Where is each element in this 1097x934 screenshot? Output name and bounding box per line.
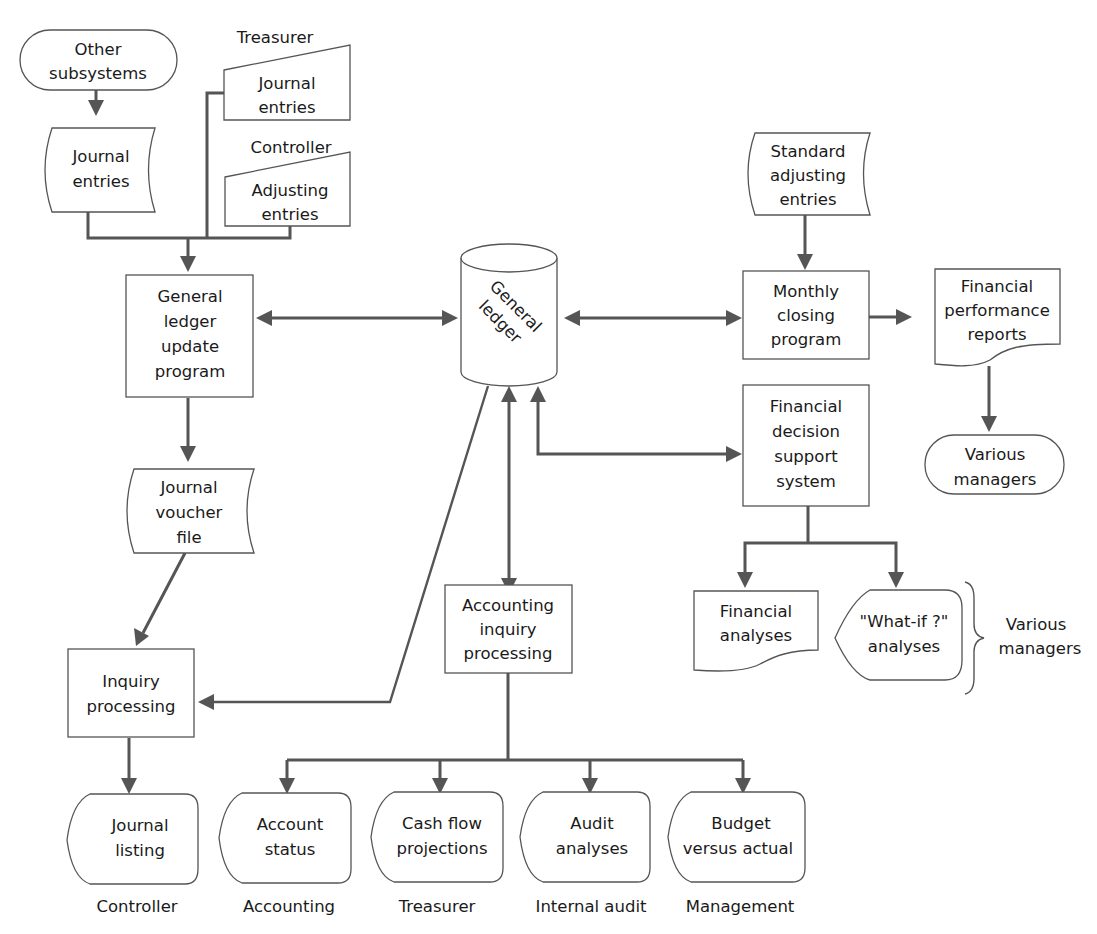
node-label: processing [87,697,176,716]
arrowhead [256,310,272,326]
node-financial-dss: Financial decision support system [743,385,869,506]
node-label: status [265,840,316,859]
node-journal-voucher-file: Journal voucher file [127,469,254,553]
node-accounting-inquiry-processing: Accounting inquiry processing [445,585,572,673]
node-label: Journal [71,147,129,166]
arrowhead [180,446,196,462]
node-label: analyses [868,637,940,656]
arrowhead [501,386,517,402]
node-label: Account [257,815,324,834]
node-label: entries [258,98,315,117]
node-what-if-analyses: "What-if ?" analyses [835,590,962,680]
edge-voucher-to-inquiry [143,553,185,633]
node-label: inquiry [479,620,536,639]
node-label: entries [779,190,836,209]
node-general-ledger: General ledger [461,244,557,386]
node-label: entries [72,172,129,191]
node-standard-adjusting-entries: Standard adjusting entries [748,133,870,215]
controller-label: Controller [250,138,331,157]
node-cash-flow-projections: Cash flow projections Treasurer [371,792,503,916]
node-label: Budget [711,814,771,833]
node-label: Adjusting [251,181,328,200]
node-label: Monthly [773,282,839,301]
node-financial-performance-reports: Financial performance reports [935,269,1060,366]
node-label: file [176,528,201,547]
node-label: voucher [156,503,223,522]
node-financial-analyses: Financial analyses [694,591,818,671]
node-label: adjusting [770,166,846,185]
node-label: Various [965,445,1026,464]
node-label: system [776,472,836,491]
arrowhead [134,628,149,646]
node-budget-versus-actual: Budget versus actual Management [668,792,805,916]
arrowhead [981,416,997,432]
node-label: General [157,287,222,306]
node-label: Financial [720,602,792,621]
arrowhead [442,310,458,326]
node-label: decision [772,422,840,441]
node-inquiry-processing: Inquiry processing [68,649,194,737]
edge-treasurer-to-bus [207,93,224,238]
edge-ledger-dss [538,400,730,454]
arrowhead [888,572,904,588]
node-label: performance [944,301,1050,320]
recipient-label: Accounting [243,897,335,916]
node-journal-entries: Journal entries [45,128,155,212]
node-label: managers [954,470,1037,489]
node-label: Accounting [462,596,554,615]
node-monthly-closing-program: Monthly closing program [743,271,869,359]
node-label: analyses [720,626,792,645]
node-label: listing [115,841,165,860]
node-label: Other [75,40,122,59]
node-label: reports [968,325,1027,344]
arrowhead [726,310,742,326]
various-managers-label: Various [1006,615,1067,634]
node-account-status: Account status Accounting [219,793,351,916]
node-audit-analyses: Audit analyses Internal audit [520,792,650,916]
node-gl-update-program: General ledger update program [126,275,253,397]
node-label: entries [261,205,318,224]
node-label: program [771,330,841,349]
arrowhead [797,254,813,270]
node-label: versus actual [683,839,793,858]
arrowhead [279,778,295,794]
node-label: Journal [159,478,217,497]
arrowhead [896,309,912,325]
arrowhead [530,386,546,402]
treasurer-label: Treasurer [236,28,314,47]
node-label: projections [397,839,488,858]
arrowhead [726,446,742,462]
arrowhead [198,694,214,710]
node-label: Financial [961,277,1033,296]
node-treasurer-journal-entries: Journal entries [224,45,350,120]
node-label: Financial [770,397,842,416]
node-label: program [155,362,225,381]
recipient-label: Treasurer [398,897,476,916]
node-other-subsystems: Other subsystems [20,30,177,90]
brace-icon [965,582,984,694]
arrowhead [180,256,196,272]
gl-flowchart: Other subsystems Journal entries Treasur… [0,0,1097,934]
node-label: closing [777,306,835,325]
node-label: analyses [556,839,628,858]
node-journal-listing: Journal listing Controller [67,794,198,916]
arrowhead [564,310,580,326]
node-label: processing [464,644,553,663]
recipient-label: Controller [96,897,177,916]
node-label: support [774,447,838,466]
node-label: "What-if ?" [860,612,949,631]
node-label: Inquiry [102,672,160,691]
node-label: subsystems [49,64,147,83]
recipient-label: Management [686,897,795,916]
various-managers-label: managers [999,639,1082,658]
arrowhead [121,778,137,794]
arrowhead [88,100,104,116]
edge-dss-split [745,506,896,576]
node-label: Audit [570,814,614,833]
edge-accounting-split [287,671,743,782]
node-label: Standard [770,142,845,161]
node-various-managers-top: Various managers [925,435,1064,494]
recipient-label: Internal audit [536,897,647,916]
node-label: Journal [257,74,315,93]
node-label: ledger [164,312,217,331]
